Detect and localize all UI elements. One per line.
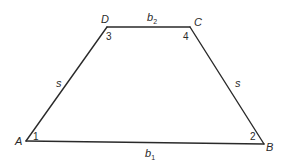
angle-label-a: 1	[33, 131, 39, 142]
angle-label-c: 4	[183, 31, 189, 42]
side-label-left-leg: s	[56, 77, 62, 89]
edge-bottom-base-AB	[26, 141, 264, 144]
vertex-label-b: B	[266, 141, 273, 153]
angle-label-b: 2	[250, 131, 256, 142]
side-label-top-base: b2	[147, 11, 157, 25]
edge-left-leg-AD	[26, 27, 107, 141]
side-label-top-base-subscript: 2	[153, 18, 157, 25]
edge-right-leg-CB	[190, 27, 264, 144]
angle-label-d: 3	[106, 31, 112, 42]
side-label-bottom-base: b1	[145, 147, 155, 161]
vertex-label-a: A	[14, 135, 22, 147]
vertex-label-c: C	[194, 16, 202, 28]
vertex-label-d: D	[101, 13, 109, 25]
trapezoid-diagram: D C A B b2 b1 s s 1 2 3 4	[0, 0, 286, 166]
side-label-right-leg: s	[235, 77, 241, 89]
side-label-bottom-base-subscript: 1	[151, 154, 155, 161]
